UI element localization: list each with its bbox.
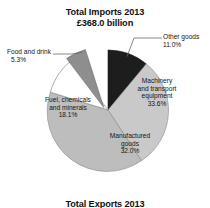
slice-label-fuel-line2: and minerals [32, 104, 104, 112]
slice-label-machinery-line1: Machinery [142, 77, 172, 84]
slice-label-machinery-percent: 33.6% [125, 100, 189, 108]
slice-label-machinery-line3: equipment [125, 92, 189, 100]
slice-label-fuel-chemicals-and-minerals: Fuel, chemicals and minerals 18.1% [32, 96, 104, 119]
slice-label-manufactured-line2: goods [96, 140, 164, 148]
slice-label-food-and-drink-name: Food and drink [7, 48, 51, 55]
pie-chart-figure: Total Imports 2013 £368.0 billion Other … [0, 0, 210, 208]
slice-label-food-and-drink: Food and drink 5.3% [0, 48, 51, 63]
next-chart-title: Total Exports 2013 [0, 199, 210, 208]
slice-label-fuel-percent: 18.1% [32, 111, 104, 119]
slice-label-other-goods: Other goods 11.0% [163, 33, 209, 48]
slice-label-manufactured-percent: 32.0% [96, 147, 164, 155]
slice-label-other-goods-percent: 11.0% [163, 41, 209, 49]
slice-label-machinery-line2: and transport [125, 85, 189, 93]
slice-label-food-and-drink-percent: 5.3% [0, 56, 51, 64]
slice-label-manufactured-goods: Manufactured goods 32.0% [96, 132, 164, 155]
slice-label-machinery-and-transport-equipment: Machinery and transport equipment 33.6% [125, 77, 189, 107]
slice-label-fuel-line1: Fuel, chemicals [45, 96, 91, 103]
slice-label-other-goods-name: Other goods [163, 33, 199, 40]
leader-line-other-goods [127, 38, 162, 57]
slice-label-manufactured-line1: Manufactured [110, 132, 150, 139]
